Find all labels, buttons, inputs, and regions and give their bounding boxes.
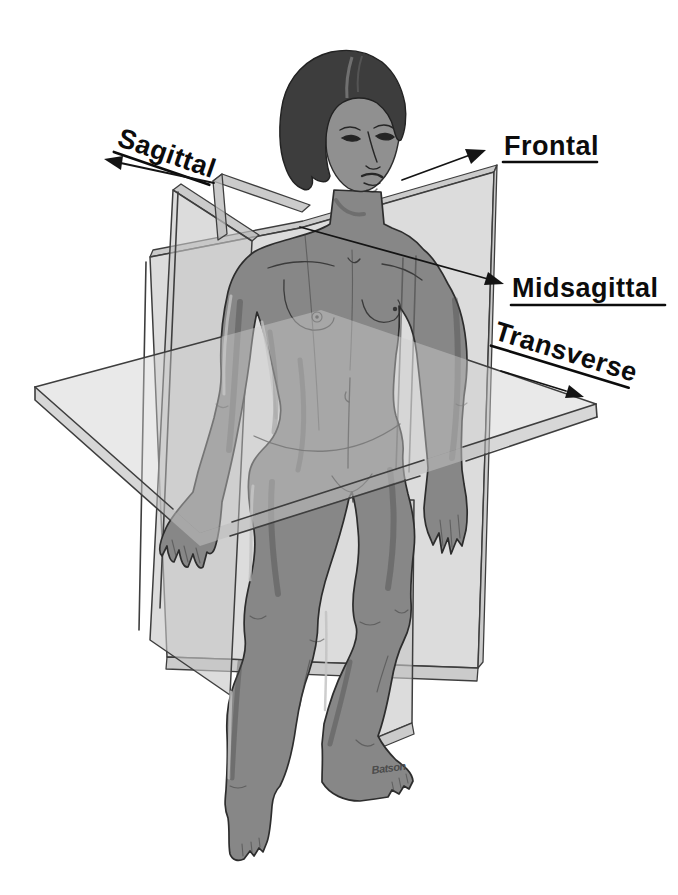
midsagittal-label: Midsagittal: [512, 273, 659, 303]
anatomy-diagram-page: Batson Sagittal Fronta: [0, 0, 678, 895]
sagittal-label: Sagittal: [114, 123, 220, 184]
frontal-annotation: Frontal: [402, 131, 599, 180]
frontal-arrowhead: [465, 149, 486, 164]
anatomical-planes-illustration: Batson Sagittal Fronta: [0, 0, 678, 895]
head: [280, 50, 406, 191]
sagittal-annotation: Sagittal: [104, 123, 220, 185]
sagittal-arrowhead: [104, 156, 123, 170]
frontal-label: Frontal: [504, 131, 599, 161]
transverse-arrowhead: [565, 385, 584, 398]
